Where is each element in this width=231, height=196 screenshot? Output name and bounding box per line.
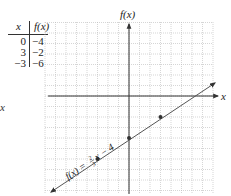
y-axis-label: f(x)	[120, 8, 136, 21]
svg-text:x − 4: x − 4	[91, 141, 116, 162]
point-3-neg2	[159, 115, 163, 119]
coordinate-graph: x f(x) f(x) = 2 3 x − 4	[0, 0, 231, 196]
svg-text:f(x) =: f(x) =	[63, 160, 89, 183]
point-0-neg4	[127, 136, 131, 140]
equation-label: f(x) = 2 3 x − 4	[63, 141, 117, 183]
x-axis-label: x	[220, 90, 226, 102]
